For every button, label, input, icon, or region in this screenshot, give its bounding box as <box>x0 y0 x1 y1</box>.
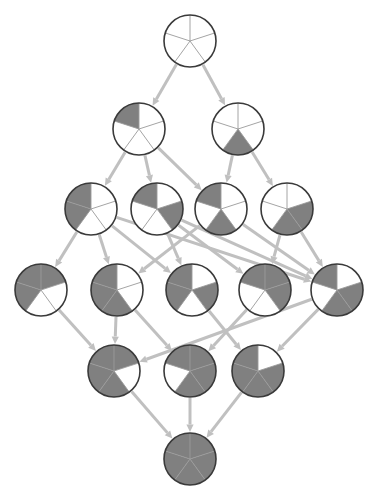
edge-n3a-to-n4a <box>59 310 96 351</box>
edge-n1a-to-n2b <box>145 155 153 182</box>
node-n3e[interactable]: three-split-b <box>311 264 363 316</box>
node-n3c[interactable]: three-split-a <box>166 264 218 316</box>
node-n4b[interactable]: four-missing-lower-left <box>164 345 216 397</box>
node-n4a[interactable]: four-missing-upper-right <box>88 345 140 397</box>
edge-n4c-to-n5 <box>207 392 242 437</box>
edge-arrowhead <box>112 336 119 344</box>
edge-n4a-to-n5 <box>132 391 173 438</box>
edge-arrowhead <box>103 256 110 264</box>
edge-n2a-to-n3b <box>99 235 110 265</box>
edge-arrowhead <box>139 356 147 363</box>
edge-arrowhead <box>186 425 193 433</box>
edge-n3b-to-n4b <box>135 310 172 351</box>
pie-lattice-diagram: empty-pieone-sector-upper-leftone-sector… <box>0 0 374 498</box>
edge-n3e-to-n4c <box>277 309 318 351</box>
edge-arrowhead <box>225 175 232 183</box>
node-n5[interactable]: full-pie <box>164 433 216 485</box>
edge-n1b-to-n2d <box>252 152 273 186</box>
node-n4c[interactable]: four-missing-top <box>232 345 284 397</box>
node-n1b[interactable]: one-sector-lower-right <box>212 103 264 155</box>
node-n3b[interactable]: three-lower-left-run <box>91 264 143 316</box>
edge-n2d-to-n3e <box>301 232 323 267</box>
node-n2d[interactable]: two-adjacent-right <box>261 183 313 235</box>
node-n3d[interactable]: three-top-run <box>239 264 291 316</box>
edge-n4b-to-n5 <box>186 398 193 432</box>
node-n2a[interactable]: two-adjacent-left <box>65 183 117 235</box>
node-n2c[interactable]: two-opposite <box>195 183 247 235</box>
edge-n1b-to-n2c <box>225 155 233 182</box>
edge-n2a-to-n3a <box>55 232 77 267</box>
edge-n1a-to-n2a <box>105 152 125 186</box>
node-n1a[interactable]: one-sector-upper-left <box>113 103 165 155</box>
edge-n3e-to-n4a <box>139 299 311 362</box>
node-n2b[interactable]: two-upper-pair <box>131 183 183 235</box>
edge-n3b-to-n4a <box>112 317 119 344</box>
node-n3a[interactable]: three-consecutive-left <box>15 264 67 316</box>
node-n0[interactable]: empty-pie <box>164 15 216 67</box>
diagram-canvas: empty-pieone-sector-upper-leftone-sector… <box>0 0 374 498</box>
edge-n0-to-n1b <box>203 65 225 106</box>
edge-n0-to-n1a <box>153 64 177 105</box>
edge-arrowhead <box>146 175 153 183</box>
